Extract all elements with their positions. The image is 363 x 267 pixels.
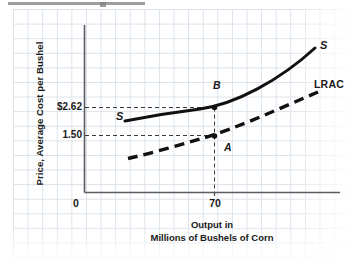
- point-marker-a: [212, 133, 217, 138]
- lrac-curve-label: LRAC: [314, 78, 344, 90]
- y-tick-label-262: $2.62: [38, 101, 82, 112]
- annotation-label-b: B: [213, 79, 221, 91]
- lrac-curve: [128, 92, 318, 159]
- x-axis-origin-label: 0: [73, 197, 79, 209]
- y-tick-label-150: 1.50: [38, 129, 82, 140]
- y-axis-title: Price, Average Cost per Bushel: [34, 29, 45, 199]
- annotation-label-a: A: [224, 141, 232, 153]
- supply-curve-label-start: S: [116, 110, 123, 122]
- x-tick-label-70: 70: [203, 197, 227, 209]
- point-marker-b: [212, 105, 217, 110]
- x-axis-title-line-2: Millions of Bushels of Corn: [122, 232, 302, 243]
- x-axis-title-line-1: Output in: [122, 219, 302, 230]
- supply-curve-label-end: S: [320, 39, 327, 51]
